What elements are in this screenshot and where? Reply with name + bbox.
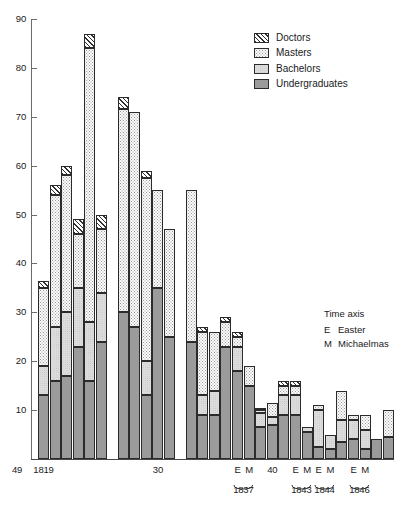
legend-item-label: Undergraduates (276, 79, 348, 89)
segment-doctors (38, 281, 49, 288)
segment-doctors (73, 219, 84, 234)
y-axis-tick-label: 10 (6, 405, 26, 414)
segment-undergraduates (348, 439, 359, 459)
segment-doctors (290, 381, 301, 386)
segment-bachelors (360, 430, 371, 450)
legend-item-doctors[interactable]: Doctors (254, 30, 348, 46)
bar[interactable] (313, 405, 324, 459)
diagonal-hatch-swatch (254, 33, 269, 43)
legend-item-masters[interactable]: Masters (254, 46, 348, 62)
bar[interactable] (336, 391, 347, 459)
bar[interactable] (232, 332, 243, 459)
segment-bachelors (38, 366, 49, 395)
bar[interactable] (50, 185, 61, 459)
bar[interactable] (371, 439, 382, 459)
y-axis-tick-label: 20 (6, 356, 26, 365)
bar[interactable] (152, 190, 163, 459)
y-axis-tick (31, 215, 37, 216)
notes-entry-text: Michaelmas (338, 337, 389, 352)
segment-bachelors (61, 312, 72, 376)
y-axis-tick (31, 68, 37, 69)
segment-bachelors (84, 322, 95, 381)
y-axis-tick (31, 312, 37, 313)
segment-doctors (220, 317, 231, 322)
bar[interactable] (325, 435, 336, 459)
bar[interactable] (383, 410, 394, 459)
bar[interactable] (61, 166, 72, 459)
notes-entry-key: M (324, 337, 338, 352)
segment-undergraduates (278, 415, 289, 459)
x-axis-group-brace (291, 477, 312, 483)
bar[interactable] (278, 381, 289, 459)
bar[interactable] (209, 332, 220, 459)
segment-masters (118, 109, 129, 312)
segment-bachelors (336, 420, 347, 442)
bar[interactable] (220, 317, 231, 459)
bar[interactable] (141, 171, 152, 459)
segment-bachelors (197, 395, 208, 415)
segment-undergraduates (73, 347, 84, 459)
bar[interactable] (197, 234, 208, 459)
bar[interactable] (38, 281, 49, 459)
segment-masters (152, 190, 163, 288)
segment-masters (232, 337, 243, 347)
segment-undergraduates (371, 439, 382, 459)
bar[interactable] (255, 410, 266, 459)
segment-masters (336, 391, 347, 420)
segment-doctors (118, 97, 129, 109)
segment-undergraduates (336, 442, 347, 459)
time-axis-notes: Time axisEEasterMMichaelmas (324, 307, 389, 352)
segment-undergraduates (186, 342, 197, 459)
bar[interactable] (73, 219, 84, 459)
bar[interactable] (118, 97, 129, 459)
segment-undergraduates (302, 432, 313, 459)
segment-masters (61, 175, 72, 312)
bar[interactable] (186, 190, 197, 459)
segment-doctors (255, 408, 266, 410)
legend-item-undergraduates[interactable]: Undergraduates (254, 77, 348, 93)
segment-undergraduates (220, 347, 231, 459)
bar[interactable] (129, 112, 140, 459)
segment-bachelors (96, 293, 107, 342)
segment-bachelors (267, 417, 278, 424)
segment-undergraduates (209, 415, 220, 459)
segment-masters (84, 48, 95, 322)
bar[interactable] (244, 366, 255, 459)
bar[interactable] (290, 381, 301, 459)
segment-masters (73, 234, 84, 288)
notes-entry-m: MMichaelmas (324, 337, 389, 352)
segment-doctors (232, 332, 243, 337)
legend: DoctorsMastersBachelorsUndergraduates (254, 30, 348, 92)
bar[interactable] (84, 34, 95, 459)
y-axis-tick-label: 50 (6, 210, 26, 219)
notes-entry-e: EEaster (324, 323, 389, 338)
segment-undergraduates (197, 415, 208, 459)
bar[interactable] (360, 415, 371, 459)
y-axis-tick-label: 40 (6, 258, 26, 267)
segment-masters (255, 410, 266, 412)
bar[interactable] (164, 229, 175, 459)
segment-masters (348, 415, 359, 420)
segment-masters (186, 190, 197, 342)
legend-item-bachelors[interactable]: Bachelors (254, 61, 348, 77)
segment-undergraduates (141, 395, 152, 459)
segment-undergraduates (360, 449, 371, 459)
x-axis-group-brace (233, 477, 254, 483)
segment-undergraduates (50, 381, 61, 459)
segment-masters (383, 410, 394, 437)
segment-undergraduates (118, 312, 129, 459)
segment-undergraduates (164, 337, 175, 459)
dark-stipple-swatch (254, 79, 269, 89)
bar[interactable] (267, 403, 278, 459)
x-axis-group-brace (349, 477, 370, 483)
x-axis-tick-label: M (348, 465, 382, 475)
segment-undergraduates (61, 376, 72, 459)
bar[interactable] (96, 215, 107, 459)
bar[interactable] (302, 427, 313, 459)
segment-undergraduates (244, 386, 255, 459)
segment-undergraduates (313, 447, 324, 459)
segment-bachelors (302, 427, 313, 432)
segment-bachelors (141, 361, 152, 395)
segment-undergraduates (129, 327, 140, 459)
bar[interactable] (348, 415, 359, 459)
